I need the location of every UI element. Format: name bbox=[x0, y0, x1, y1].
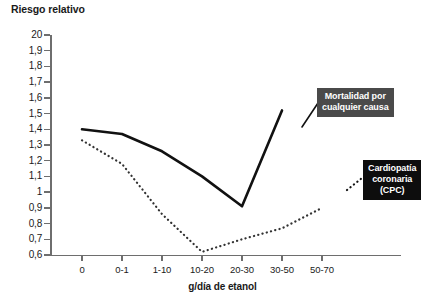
annotation-cardiopatia-line1: Cardiopatía bbox=[368, 163, 416, 174]
annotation-mortalidad-line1: Mortalidad por bbox=[322, 91, 389, 102]
annotation-cardiopatia-line2: coronaria bbox=[368, 174, 416, 185]
series-layer bbox=[0, 0, 445, 304]
annotation-cardiopatia: Cardiopatía coronaria (CPC) bbox=[363, 160, 421, 200]
series-line-cardiopatia bbox=[82, 140, 322, 252]
annotation-cardiopatia-line3: (CPC) bbox=[368, 185, 416, 196]
annotation-mortalidad: Mortalidad por cualquier causa bbox=[317, 88, 394, 117]
annotation-mortalidad-line2: cualquier causa bbox=[322, 102, 389, 113]
leader-line-mortalidad bbox=[302, 103, 318, 127]
x-axis-title: g/día de etanol bbox=[0, 281, 445, 292]
leader-line-cardiopatia bbox=[347, 178, 362, 190]
relative-risk-line-chart: Riesgo relativo 201,91,81,71,61,51,41,31… bbox=[0, 0, 445, 304]
